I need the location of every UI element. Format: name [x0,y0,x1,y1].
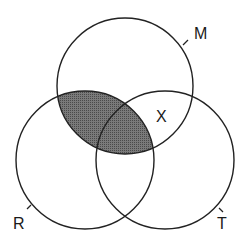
leader-line-t [219,208,223,212]
leader-line-m [183,40,188,45]
label-r: R [13,215,25,232]
label-t: T [217,215,227,232]
label-m: M [194,25,207,42]
venn-diagram: M R T X [0,0,246,243]
region-label-x: X [156,108,167,125]
leader-line-r [27,205,31,209]
